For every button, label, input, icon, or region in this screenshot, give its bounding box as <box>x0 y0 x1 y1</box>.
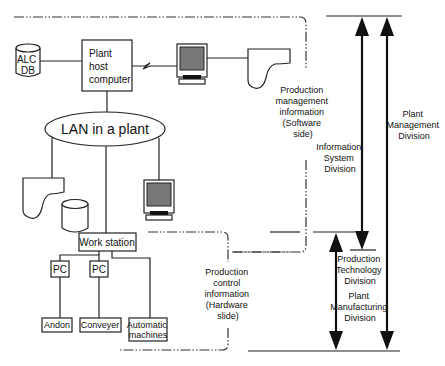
plant-management-division-label: Plant Management Division <box>386 109 441 141</box>
arrow-down-icon <box>329 331 343 350</box>
production-technology-division-label: Production Technology Division <box>336 254 384 286</box>
software-side-label: Production management information (Softw… <box>275 85 330 139</box>
information-system-division-label: Information System Division <box>316 142 364 174</box>
printer-output-icon <box>23 178 64 218</box>
monitor-icon <box>177 44 207 84</box>
arrow-down-icon <box>380 331 394 350</box>
andon-label: Andon <box>44 320 70 330</box>
connector-ws-pcs <box>60 255 99 261</box>
hardware-region-boundary <box>148 232 228 262</box>
system-diagram: Information System Division Plant Manage… <box>0 0 445 366</box>
pc-label-2: PC <box>92 264 106 275</box>
conveyer-label: Conveyer <box>81 320 120 330</box>
connector-host-monitor <box>132 63 177 69</box>
work-station-label: Work station <box>79 237 134 248</box>
connector-ws-automatic <box>112 251 150 318</box>
pc-label-1: PC <box>53 264 67 275</box>
monitor-icon <box>144 180 174 220</box>
automatic-machines-label: Automatic machines <box>127 320 170 340</box>
plant-manufacturing-division-label: Plant Manufacturing Division <box>330 291 390 323</box>
arrow-up-icon <box>380 17 394 36</box>
printer-output-icon <box>248 49 290 88</box>
arrow-up-icon <box>329 233 343 252</box>
hardware-side-label: Production control information (Hardware… <box>204 267 251 321</box>
arrow-down-icon <box>355 231 369 250</box>
alc-db-cylinder: ALC DB <box>16 44 40 77</box>
lan-label: LAN in a plant <box>61 121 149 137</box>
database-cylinder <box>62 200 88 233</box>
software-region-boundary-lower <box>232 160 306 252</box>
arrow-up-icon <box>355 17 369 36</box>
